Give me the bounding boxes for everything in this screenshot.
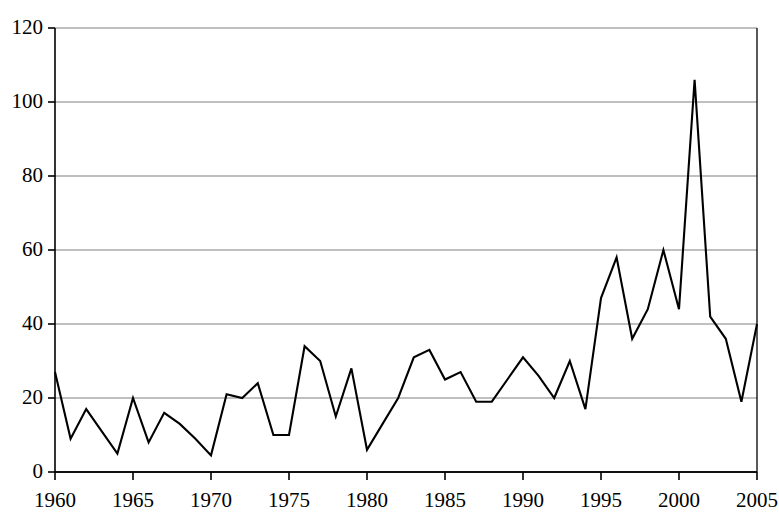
x-axis-tick-label: 2005: [717, 490, 779, 511]
x-axis-tick-label: 2000: [639, 490, 719, 511]
x-axis-tick-label: 1995: [561, 490, 641, 511]
x-axis-tick-label: 1990: [483, 490, 563, 511]
data-series-line: [55, 80, 757, 456]
x-axis-tick-label: 1985: [405, 490, 485, 511]
x-axis-tick-label: 1980: [327, 490, 407, 511]
x-axis-tick-label: 1965: [93, 490, 173, 511]
y-axis-tick-label: 40: [22, 313, 43, 334]
x-axis-tick-label: 1970: [171, 490, 251, 511]
y-axis-tick-label: 80: [22, 165, 43, 186]
y-axis-tick-label: 20: [22, 387, 43, 408]
chart-plot-area: [0, 0, 779, 523]
x-axis-ticks: [55, 472, 757, 480]
line-chart: 020406080100120 196019651970197519801985…: [0, 0, 779, 523]
y-axis-tick-label: 100: [12, 91, 44, 112]
y-axis-tick-label: 120: [12, 17, 44, 38]
x-axis-tick-label: 1960: [15, 490, 95, 511]
y-axis-tick-label: 60: [22, 239, 43, 260]
y-axis-ticks: [48, 28, 55, 472]
gridlines: [55, 28, 757, 472]
x-axis-tick-label: 1975: [249, 490, 329, 511]
y-axis-tick-label: 0: [33, 461, 44, 482]
